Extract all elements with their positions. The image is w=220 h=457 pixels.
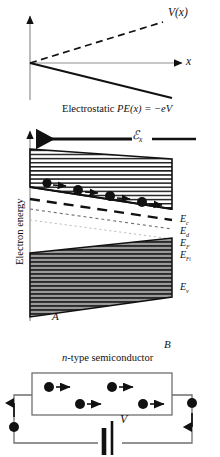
electron-dot <box>44 382 54 392</box>
electrostatic-pe-caption: Electrostatic PE(x) = −eV <box>62 103 172 114</box>
device-label-rest: -type semiconductor <box>67 352 153 363</box>
terminal-label-b: B <box>164 338 171 350</box>
electron-dot <box>105 191 115 201</box>
device-label: n-type semiconductor <box>62 352 153 363</box>
caption-pe-symbol: PE <box>117 103 130 114</box>
bar-electrons <box>44 382 164 409</box>
field-subscript: x <box>139 135 142 144</box>
semiconductor-bar <box>32 373 172 415</box>
level-subscript: Fi <box>186 256 191 262</box>
electron-drift-arrow <box>85 192 98 193</box>
level-subscript: v <box>186 287 189 294</box>
circuit-panel <box>0 365 220 457</box>
electron-drift-arrow <box>117 198 130 199</box>
electron-drift-arrow <box>149 204 162 205</box>
terminal-label-a: A <box>52 310 59 322</box>
electron-dot <box>107 382 117 392</box>
caption-prefix: Electrostatic <box>62 103 117 114</box>
caption-arg: (x) = −eV <box>130 103 172 114</box>
electron-dot <box>75 399 85 409</box>
level-label-efi: EFi <box>180 249 191 262</box>
electric-field-label: ℰx <box>132 128 142 144</box>
electron-dot <box>73 185 83 195</box>
potential-energy-curve <box>30 63 172 98</box>
electron-dot <box>137 197 147 207</box>
v-of-x-label: V(x) <box>168 6 188 18</box>
right-wire-electron-dot <box>187 398 197 408</box>
figure-root: V(x) x Electrostatic PE(x) = −eV <box>0 0 220 457</box>
electron-dot <box>138 399 148 409</box>
electron-energy-axis-label: Electron energy <box>14 198 25 265</box>
battery-voltage-label: V <box>120 412 127 427</box>
left-wire-electron-dot <box>9 422 19 432</box>
field-symbol: ℰ <box>132 128 139 142</box>
fermi-level-line <box>30 209 172 229</box>
electron-dot <box>42 178 51 187</box>
x-axis-label: x <box>186 55 191 67</box>
valence-band-hatch <box>24 233 180 325</box>
intrinsic-fermi-level-line <box>30 220 172 239</box>
potential-curve-dashed <box>30 22 163 63</box>
level-label-ev: Ev <box>180 281 189 294</box>
electron-drift-arrow <box>53 185 66 186</box>
battery-symbol <box>104 421 112 455</box>
